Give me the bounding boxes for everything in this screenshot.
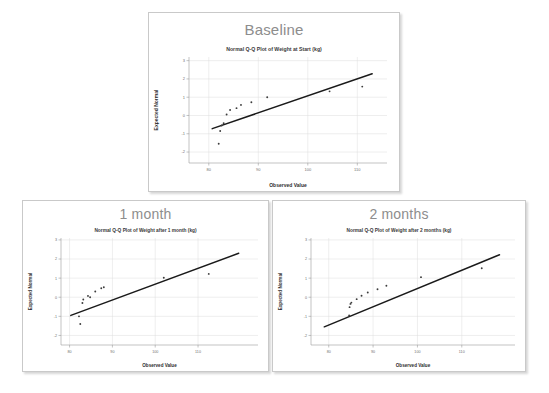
qq-plot-baseline: 3210-1-28090100110Observed ValueExpected… — [149, 13, 401, 193]
svg-text:110: 110 — [354, 167, 361, 172]
svg-text:Observed Value: Observed Value — [142, 363, 177, 368]
svg-text:2: 2 — [55, 257, 57, 261]
qq-plot-1-month: 3210-1-28090100110Observed ValueExpected… — [23, 201, 270, 373]
svg-text:Expected Normal: Expected Normal — [28, 273, 33, 311]
panel-baseline: Baseline Normal Q-Q Plot of Weight at St… — [148, 12, 400, 192]
svg-text:Expected Normal: Expected Normal — [278, 273, 283, 311]
svg-text:0: 0 — [305, 296, 307, 300]
svg-text:0: 0 — [183, 113, 186, 118]
svg-text:80: 80 — [207, 167, 212, 172]
svg-text:Expected Normal: Expected Normal — [153, 89, 159, 130]
svg-text:1: 1 — [305, 277, 307, 281]
svg-text:90: 90 — [110, 350, 114, 354]
svg-text:3: 3 — [305, 238, 307, 242]
svg-text:80: 80 — [327, 350, 331, 354]
svg-text:100: 100 — [414, 350, 420, 354]
svg-text:-2: -2 — [181, 149, 185, 154]
svg-text:2: 2 — [305, 257, 307, 261]
svg-text:80: 80 — [68, 350, 72, 354]
svg-text:2: 2 — [183, 76, 186, 81]
panel-1-month: 1 month Normal Q-Q Plot of Weight after … — [22, 200, 269, 372]
svg-text:100: 100 — [304, 167, 311, 172]
svg-text:0: 0 — [55, 296, 57, 300]
svg-text:3: 3 — [183, 58, 186, 63]
svg-text:-2: -2 — [304, 334, 307, 338]
svg-text:Observed Value: Observed Value — [269, 182, 307, 188]
panel-2-months: 2 months Normal Q-Q Plot of Weight after… — [272, 200, 526, 372]
svg-text:-1: -1 — [181, 131, 185, 136]
svg-text:3: 3 — [55, 238, 57, 242]
svg-text:Observed Value: Observed Value — [396, 363, 431, 368]
svg-text:90: 90 — [256, 167, 261, 172]
svg-text:100: 100 — [152, 350, 158, 354]
svg-text:1: 1 — [55, 277, 57, 281]
svg-text:90: 90 — [371, 350, 375, 354]
svg-text:-2: -2 — [54, 334, 57, 338]
svg-text:110: 110 — [459, 350, 465, 354]
svg-text:-1: -1 — [54, 315, 57, 319]
svg-text:-1: -1 — [304, 315, 307, 319]
svg-text:110: 110 — [195, 350, 201, 354]
qq-plot-2-months: 3210-1-28090100110Observed ValueExpected… — [273, 201, 527, 373]
svg-text:1: 1 — [183, 95, 186, 100]
